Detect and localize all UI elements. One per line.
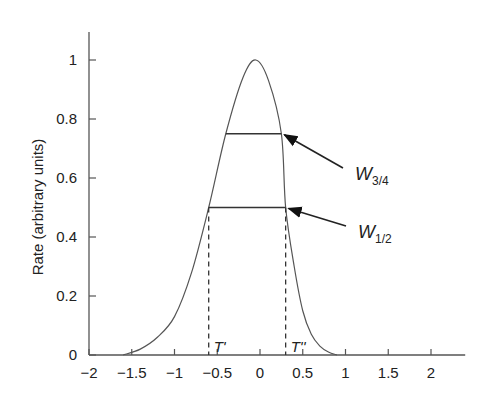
x-tick-label: −1.5: [117, 364, 147, 381]
x-tick-label: 0: [256, 364, 264, 381]
x-tick-label: −0.5: [202, 364, 232, 381]
y-tick-label: 0.6: [56, 169, 77, 186]
width-label-1-2: W1/2: [358, 222, 392, 246]
label-t-double-prime: T'': [291, 338, 307, 355]
y-tick-label: 0.4: [56, 228, 77, 245]
x-tick-label: 2: [427, 364, 435, 381]
x-tick-label: 1: [341, 364, 349, 381]
x-tick-label: 1.5: [378, 364, 399, 381]
x-tick-label: −2: [80, 364, 97, 381]
x-tick-label: 0.5: [292, 364, 313, 381]
y-tick-label: 1: [69, 51, 77, 68]
y-tick-label: 0.8: [56, 110, 77, 127]
rate-distribution-chart: −2−1.5−1−0.500.511.5200.20.40.60.81 W3/4…: [0, 0, 486, 408]
annotations: W3/4W1/2T'T'': [209, 134, 392, 355]
axes: [89, 32, 465, 355]
width-label-3-4: W3/4: [355, 164, 389, 188]
pointer-arrow: [289, 209, 346, 227]
label-t-prime: T': [214, 338, 227, 355]
y-axis-title: Rate (arbitrary units): [29, 139, 46, 276]
y-tick-label: 0.2: [56, 287, 77, 304]
pointer-arrow: [284, 135, 343, 168]
axis-ticks: −2−1.5−1−0.500.511.5200.20.40.60.81: [56, 51, 435, 381]
x-tick-label: −1: [166, 364, 183, 381]
y-tick-label: 0: [69, 346, 77, 363]
